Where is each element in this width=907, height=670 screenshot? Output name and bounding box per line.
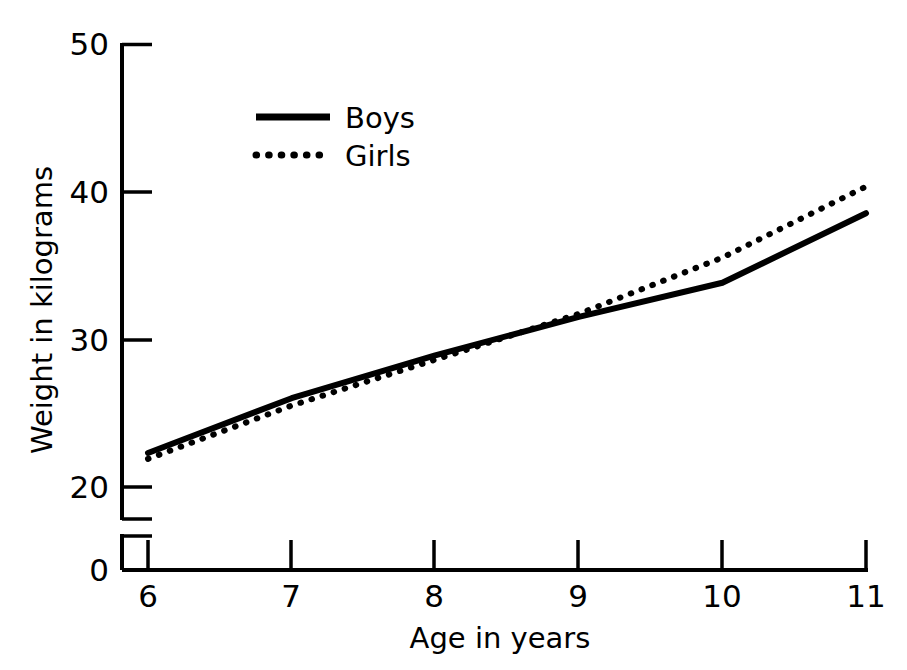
- legend: Boys Girls: [256, 101, 415, 173]
- weight-vs-age-line-chart: 50 40 30 20 0 Weight in kilograms 6 7 8 …: [0, 0, 907, 670]
- y-tick-label-30: 30: [70, 322, 109, 358]
- y-axis-group: [122, 43, 152, 570]
- x-tick-label-11: 11: [846, 578, 885, 614]
- y-tick-label-40: 40: [70, 174, 109, 210]
- y-tick-label-20: 20: [70, 469, 109, 505]
- y-tick-label-0: 0: [89, 552, 109, 588]
- x-tick-label-10: 10: [702, 578, 741, 614]
- x-axis-group: [122, 540, 868, 570]
- y-tick-label-50: 50: [70, 26, 109, 62]
- y-axis-title: Weight in kilograms: [25, 166, 59, 454]
- legend-label-boys: Boys: [345, 101, 415, 135]
- x-tick-label-6: 6: [138, 578, 158, 614]
- x-tick-label-9: 9: [568, 578, 588, 614]
- legend-label-girls: Girls: [345, 139, 411, 173]
- x-axis-title: Age in years: [410, 621, 591, 655]
- series-line-girls: [148, 187, 866, 459]
- chart-container: 50 40 30 20 0 Weight in kilograms 6 7 8 …: [0, 0, 907, 670]
- x-tick-label-7: 7: [281, 578, 301, 614]
- x-tick-label-8: 8: [424, 578, 444, 614]
